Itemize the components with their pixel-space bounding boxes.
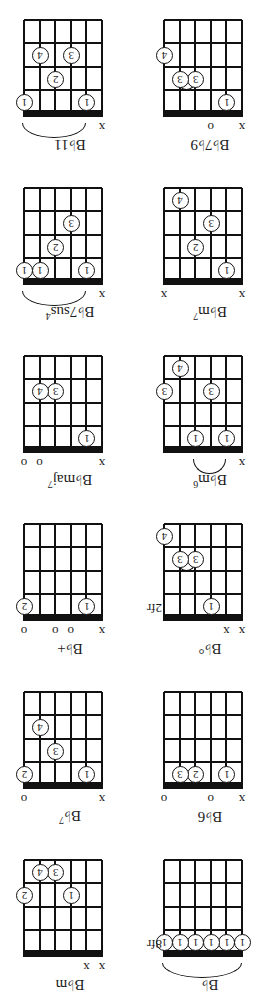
fret-line: [24, 547, 102, 549]
chord-name: B♭6: [140, 808, 280, 826]
muted-string-marker: x: [96, 456, 108, 470]
chord-name: B♭maj7: [0, 471, 140, 490]
string-line: [179, 524, 181, 620]
finger-dot: 4: [172, 192, 189, 209]
finger-dot: 1: [16, 262, 33, 279]
string-line: [39, 20, 41, 116]
open-string-marker: o: [205, 792, 217, 806]
chord-diagram: B♭mxx1234: [0, 840, 140, 1008]
fret-line: [24, 43, 102, 45]
fret-line: [24, 66, 102, 68]
string-line: [163, 692, 165, 788]
finger-dot: 4: [156, 47, 173, 64]
chord-diagram: B♭7♭9xo1334: [140, 0, 280, 168]
fretboard-grid: 1234: [24, 692, 102, 788]
fret-line: [24, 234, 102, 236]
string-markers: xx: [164, 288, 242, 302]
finger-dot: 1: [78, 262, 95, 279]
fretboard-grid: 111111: [164, 860, 242, 956]
chord-diagram: B♭7sus4x11123: [0, 168, 140, 336]
fret-line: [164, 691, 242, 693]
chord-name: B♭m7: [140, 303, 280, 322]
chord-name: B♭7sus4: [0, 303, 140, 322]
fretboard-grid: 12: [24, 524, 102, 620]
string-markers: xooo: [24, 624, 102, 638]
string-line: [70, 524, 72, 620]
finger-dot: 2: [16, 766, 33, 783]
fret-line: [24, 211, 102, 213]
string-line: [241, 692, 243, 788]
finger-dot: 1: [218, 430, 235, 447]
nut: [163, 782, 243, 789]
open-string-marker: o: [34, 456, 46, 470]
string-line: [241, 20, 243, 116]
nut: [163, 614, 243, 621]
string-line: [225, 524, 227, 620]
nut: [23, 950, 103, 957]
string-markers: xo: [24, 792, 102, 806]
string-line: [101, 692, 103, 788]
string-line: [70, 20, 72, 116]
finger-dot: 3: [203, 215, 220, 232]
string-line: [101, 356, 103, 452]
nut: [23, 278, 103, 285]
string-line: [101, 20, 103, 116]
finger-dot: 3: [156, 383, 173, 400]
fret-line: [164, 738, 242, 740]
nut: [23, 614, 103, 621]
fret-line: [164, 66, 242, 68]
string-line: [179, 20, 181, 116]
fret-line: [164, 930, 242, 932]
string-line: [54, 692, 56, 788]
fret-line: [24, 594, 102, 596]
fretboard-grid: 11234: [24, 20, 102, 116]
finger-dot: 3: [172, 766, 189, 783]
finger-dot: 1: [187, 934, 204, 951]
chord-name: B♭+: [0, 640, 140, 658]
muted-string-marker: x: [236, 456, 248, 470]
finger-dot: 1: [218, 262, 235, 279]
muted-string-marker: x: [80, 960, 92, 974]
finger-dot: 2: [47, 239, 64, 256]
muted-string-marker: x: [236, 792, 248, 806]
fret-line: [24, 258, 102, 260]
finger-dot: 1: [218, 766, 235, 783]
string-markers: xx: [164, 624, 242, 638]
finger-dot: 1: [218, 934, 235, 951]
nut: [23, 446, 103, 453]
string-line: [23, 356, 25, 452]
fret-line: [164, 402, 242, 404]
chord-diagram: B♭+xooo12: [0, 504, 140, 672]
fretboard-grid: 1234: [24, 860, 102, 956]
nut: [163, 950, 243, 957]
string-line: [70, 356, 72, 452]
chord-diagram: B♭°xx13342fr: [140, 504, 280, 672]
string-line: [210, 692, 212, 788]
string-line: [101, 188, 103, 284]
fret-line: [24, 930, 102, 932]
chord-name: B♭: [140, 976, 280, 994]
open-string-marker: o: [205, 120, 217, 134]
finger-dot: 3: [63, 215, 80, 232]
chord-diagram: B♭maj7xoo134: [0, 336, 140, 504]
fret-line: [164, 19, 242, 21]
fret-line: [164, 258, 242, 260]
string-line: [241, 188, 243, 284]
finger-dot: 3: [63, 47, 80, 64]
muted-string-marker: x: [236, 624, 248, 638]
fret-line: [164, 859, 242, 861]
muted-string-marker: x: [220, 624, 232, 638]
string-line: [163, 20, 165, 116]
finger-dot: 1: [78, 94, 95, 111]
string-line: [163, 188, 165, 284]
string-line: [194, 524, 196, 620]
string-markers: xoo: [164, 792, 242, 806]
finger-dot: 1: [32, 262, 49, 279]
finger-dot: 1: [187, 430, 204, 447]
fret-line: [164, 211, 242, 213]
nut: [23, 782, 103, 789]
fret-line: [24, 762, 102, 764]
chord-name: B♭m: [0, 976, 140, 994]
fret-line: [164, 883, 242, 885]
open-string-marker: o: [49, 624, 61, 638]
